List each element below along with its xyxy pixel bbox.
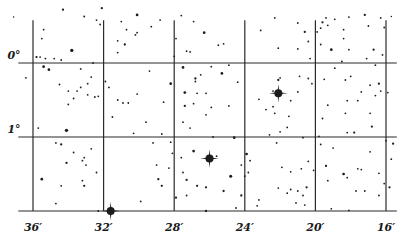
stars-layer xyxy=(13,7,394,212)
star xyxy=(73,152,75,154)
star xyxy=(334,67,336,69)
star xyxy=(161,133,163,135)
star xyxy=(327,180,329,182)
star xyxy=(168,167,170,169)
star xyxy=(346,132,348,134)
star xyxy=(320,27,322,29)
star xyxy=(41,38,43,40)
star xyxy=(382,54,384,56)
star xyxy=(325,17,327,19)
star xyxy=(357,168,359,170)
star xyxy=(37,127,39,129)
star xyxy=(159,19,161,21)
star xyxy=(385,140,387,142)
star xyxy=(290,189,292,191)
star xyxy=(40,178,43,181)
star xyxy=(82,160,84,162)
y-tick-label: 0° xyxy=(7,49,20,62)
x-tick-labels: 36′32′28′24′20′16′ xyxy=(24,221,395,234)
y-tick-label: 1° xyxy=(7,123,20,136)
star xyxy=(120,21,122,23)
star xyxy=(223,43,225,45)
star xyxy=(380,17,382,19)
star xyxy=(380,90,382,92)
star xyxy=(194,77,196,79)
star xyxy=(43,29,45,31)
star xyxy=(205,114,207,116)
star xyxy=(372,49,374,51)
star xyxy=(375,95,377,97)
star xyxy=(304,31,306,33)
star xyxy=(346,100,348,102)
bright-star xyxy=(200,149,218,167)
star xyxy=(161,185,163,187)
star xyxy=(302,195,304,197)
star xyxy=(341,61,343,63)
star xyxy=(290,100,292,102)
star xyxy=(378,172,380,174)
star xyxy=(330,208,332,210)
y-tick-labels: 0°1° xyxy=(7,49,20,136)
star xyxy=(67,104,69,106)
star xyxy=(258,199,260,201)
star xyxy=(297,190,299,192)
star xyxy=(272,90,274,92)
star xyxy=(83,15,85,17)
star xyxy=(325,165,327,167)
star xyxy=(300,168,302,170)
star xyxy=(83,157,85,159)
star xyxy=(13,16,15,18)
star xyxy=(321,21,323,23)
star xyxy=(67,90,69,92)
star xyxy=(390,158,392,160)
star xyxy=(307,41,309,43)
star xyxy=(195,81,197,83)
star xyxy=(182,66,185,69)
star xyxy=(274,112,276,114)
star xyxy=(346,177,348,179)
grid-lines xyxy=(18,20,397,211)
star xyxy=(302,137,304,139)
bright-star xyxy=(101,202,119,220)
star xyxy=(117,40,119,42)
star xyxy=(189,127,191,129)
star xyxy=(240,164,242,166)
star xyxy=(83,185,85,187)
star xyxy=(286,127,288,129)
star xyxy=(70,49,73,52)
star xyxy=(55,203,57,205)
star xyxy=(274,17,276,19)
star xyxy=(60,143,62,145)
star xyxy=(205,92,207,94)
star xyxy=(322,118,324,120)
star xyxy=(348,16,350,18)
star xyxy=(369,112,371,114)
star xyxy=(60,59,62,61)
star xyxy=(45,58,47,60)
star xyxy=(297,91,299,93)
star xyxy=(297,22,299,24)
star xyxy=(375,64,377,66)
star xyxy=(42,65,45,68)
star xyxy=(210,107,212,109)
star xyxy=(60,185,62,187)
star xyxy=(327,104,329,106)
star xyxy=(92,62,94,64)
star xyxy=(126,29,128,31)
star xyxy=(355,190,357,192)
star xyxy=(200,74,202,76)
star xyxy=(39,56,41,58)
star xyxy=(183,91,186,94)
star xyxy=(152,142,154,144)
star xyxy=(59,84,61,86)
star xyxy=(357,100,359,102)
star xyxy=(249,160,251,162)
star xyxy=(366,58,368,60)
star xyxy=(169,82,172,85)
star xyxy=(307,161,309,163)
star xyxy=(265,109,267,111)
star xyxy=(313,169,315,171)
star xyxy=(136,14,139,17)
star xyxy=(150,26,152,28)
star xyxy=(127,102,129,104)
